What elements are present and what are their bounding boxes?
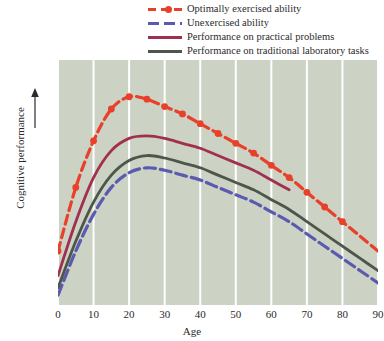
series-layer bbox=[58, 96, 378, 295]
x-axis-title: Age bbox=[0, 325, 384, 337]
series-marker bbox=[179, 111, 186, 118]
x-axis-tick-label: 30 bbox=[159, 308, 170, 320]
series-line bbox=[58, 155, 378, 287]
series-marker bbox=[161, 103, 168, 110]
legend-item-practical-problems: Performance on practical problems bbox=[148, 30, 382, 44]
series-line bbox=[58, 168, 378, 295]
series-marker bbox=[215, 130, 222, 137]
chart-page: Optimally exercised ability Unexercised … bbox=[0, 0, 384, 341]
legend-swatch-red-dashed-icon bbox=[148, 3, 182, 15]
series-marker bbox=[108, 106, 115, 113]
series-marker bbox=[197, 120, 204, 127]
series-marker bbox=[126, 93, 133, 100]
series-marker bbox=[339, 218, 346, 225]
legend-swatch-blue-dashed-icon bbox=[148, 17, 182, 29]
x-axis-tick-label: 60 bbox=[266, 308, 277, 320]
chart-legend: Optimally exercised ability Unexercised … bbox=[148, 2, 382, 58]
series-marker bbox=[250, 150, 257, 157]
x-axis-tick-label: 80 bbox=[337, 308, 348, 320]
x-axis-tick-label: 90 bbox=[373, 308, 384, 320]
legend-item-optimally-exercised-ability: Optimally exercised ability bbox=[148, 2, 382, 16]
series-marker bbox=[58, 248, 61, 255]
x-axis-tick-label: 10 bbox=[88, 308, 99, 320]
x-axis-tick-label: 50 bbox=[230, 308, 241, 320]
series-marker bbox=[321, 204, 328, 211]
series-marker bbox=[143, 96, 150, 103]
x-axis-tick-label: 0 bbox=[55, 308, 61, 320]
y-axis-title: Cognitive performance bbox=[14, 78, 26, 238]
series-marker bbox=[232, 140, 239, 147]
series-marker bbox=[90, 137, 97, 144]
legend-label: Optimally exercised ability bbox=[187, 3, 301, 15]
plot-area bbox=[58, 60, 378, 305]
x-axis-tick-label: 20 bbox=[124, 308, 135, 320]
legend-label: Performance on practical problems bbox=[187, 31, 334, 43]
legend-swatch-slate-solid-icon bbox=[148, 45, 182, 57]
series-marker bbox=[268, 162, 275, 169]
series-marker bbox=[303, 189, 310, 196]
x-axis-tick-label: 40 bbox=[195, 308, 206, 320]
legend-label: Performance on traditional laboratory ta… bbox=[187, 45, 369, 57]
y-axis-up-arrow-icon bbox=[29, 88, 41, 128]
legend-item-unexercised-ability: Unexercised ability bbox=[148, 16, 382, 30]
series-marker bbox=[286, 174, 293, 181]
legend-label: Unexercised ability bbox=[187, 17, 269, 29]
legend-swatch-maroon-solid-icon bbox=[148, 31, 182, 43]
legend-item-laboratory-tasks: Performance on traditional laboratory ta… bbox=[148, 44, 382, 58]
plot-canvas bbox=[58, 60, 378, 305]
x-axis-tick-label: 70 bbox=[301, 308, 312, 320]
series-marker bbox=[72, 184, 79, 191]
